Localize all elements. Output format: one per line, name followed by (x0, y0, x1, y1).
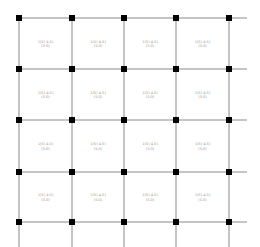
panel-label-line2: (5.0) (41, 147, 50, 151)
column-node (173, 169, 179, 175)
panel-label-line2: (5.0) (146, 147, 155, 151)
panel-label-line1: 1(5) 4.5) (38, 91, 54, 95)
panel-label-line1: 1(5) 4.5) (142, 193, 158, 197)
panel-label-line1: 1(5) 4.5) (90, 142, 106, 146)
panel-label-line2: (5.0) (146, 95, 155, 99)
column-node (173, 66, 179, 72)
column-node (226, 169, 232, 175)
panel-label-line2: (5.0) (41, 95, 50, 99)
panel-label-line2: (5.0) (198, 147, 207, 151)
panel-label-line2: (5.0) (198, 198, 207, 202)
panel-label-line1: 1(5) 4.5) (142, 142, 158, 146)
panel-label-line2: (5.0) (94, 44, 103, 48)
panel-label-line2: (5.0) (198, 44, 207, 48)
panel-label-line1: 1(5) 4.5) (38, 142, 54, 146)
column-node (173, 15, 179, 21)
column-node (121, 219, 127, 225)
column-node (226, 219, 232, 225)
column-node (69, 15, 75, 21)
panel-label-line1: 1(5) 4.5) (195, 142, 211, 146)
column-node (16, 15, 22, 21)
column-node (226, 117, 232, 123)
panel-label-line1: 1(5) 4.5) (38, 40, 54, 44)
column-node (69, 169, 75, 175)
grid-plan: 1(5) 4.5)(5.0)1(5) 4.5)(5.0)1(5) 4.5)(5.… (0, 0, 260, 247)
column-node (121, 117, 127, 123)
panel-label-line2: (5.0) (146, 198, 155, 202)
panel-label-line1: 1(5) 4.5) (90, 40, 106, 44)
panel-label-line2: (5.0) (41, 198, 50, 202)
panel-label-line2: (5.0) (146, 44, 155, 48)
panel-label-line1: 1(5) 4.5) (142, 91, 158, 95)
panel-label-line1: 1(5) 4.5) (195, 193, 211, 197)
column-node (69, 219, 75, 225)
column-node (16, 219, 22, 225)
panel-label-line1: 1(5) 4.5) (38, 193, 54, 197)
column-node (16, 117, 22, 123)
column-node (121, 66, 127, 72)
panel-label-line2: (5.0) (41, 44, 50, 48)
column-node (69, 117, 75, 123)
column-node (173, 117, 179, 123)
panel-label-line1: 1(5) 4.5) (90, 91, 106, 95)
panel-label-line1: 1(5) 4.5) (195, 91, 211, 95)
column-node (173, 219, 179, 225)
panel-label-line1: 1(5) 4.5) (90, 193, 106, 197)
column-node (16, 169, 22, 175)
panel-label-line1: 1(5) 4.5) (142, 40, 158, 44)
panel-label-line2: (5.0) (94, 95, 103, 99)
panel-label-line2: (5.0) (198, 95, 207, 99)
column-node (226, 15, 232, 21)
column-node (69, 66, 75, 72)
column-node (226, 66, 232, 72)
panel-label-line2: (5.0) (94, 147, 103, 151)
grid-lines (19, 18, 247, 247)
column-node (16, 66, 22, 72)
panel-label-line1: 1(5) 4.5) (195, 40, 211, 44)
column-node (121, 15, 127, 21)
panel-label-line2: (5.0) (94, 198, 103, 202)
column-node (121, 169, 127, 175)
